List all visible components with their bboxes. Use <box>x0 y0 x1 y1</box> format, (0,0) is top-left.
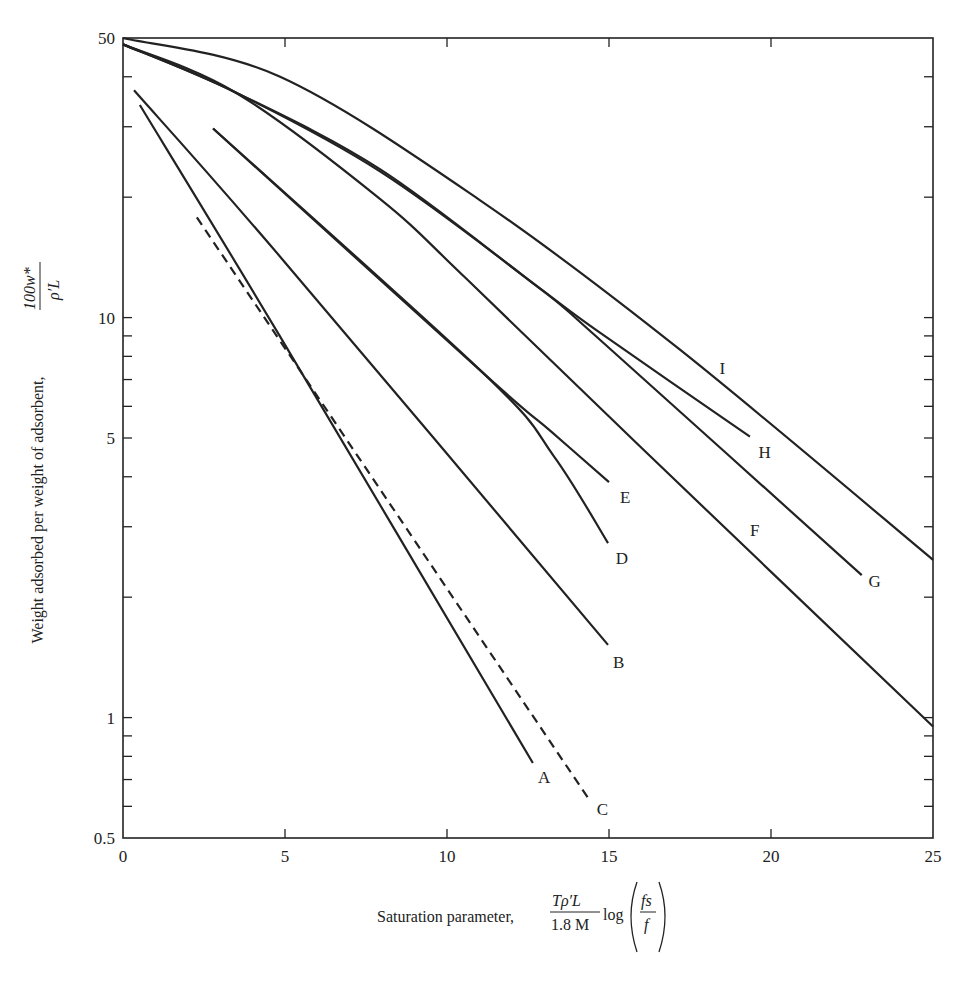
y-tick-label: 1 <box>107 709 116 728</box>
x-formula-frac-den: f <box>644 916 651 934</box>
y-axis-label: Weight adsorbed per weight of adsorbent, <box>29 376 47 643</box>
x-tick-label: 25 <box>925 847 942 866</box>
y-tick-label: 5 <box>107 429 116 448</box>
curves <box>123 38 933 801</box>
curve-I <box>123 38 933 560</box>
chart: 05101520250.5151050 ABCDEFGHI Weight ads… <box>0 0 977 985</box>
curve-label-D: D <box>616 549 628 568</box>
x-axis-label: Saturation parameter, <box>377 908 514 926</box>
y-formula-denominator: ρ′L <box>45 280 63 301</box>
right-paren <box>659 882 665 952</box>
curve-G <box>123 44 862 575</box>
y-tick-label: 50 <box>98 29 115 48</box>
curve-label-E: E <box>620 488 630 507</box>
curve-B <box>134 90 608 645</box>
curve-label-G: G <box>869 572 881 591</box>
x-tick-label: 15 <box>601 847 618 866</box>
curve-F <box>123 44 933 726</box>
axes: 05101520250.5151050 <box>94 29 942 866</box>
curve-label-H: H <box>758 443 770 462</box>
curve-label-F: F <box>750 521 759 540</box>
curve-label-A: A <box>538 768 551 787</box>
x-formula-numerator: Tρ′L <box>552 892 581 910</box>
curve-label-B: B <box>613 653 624 672</box>
curve-labels: ABCDEFGHI <box>538 359 881 820</box>
curve-label-I: I <box>720 359 726 378</box>
x-tick-label: 5 <box>281 847 290 866</box>
x-formula-denominator: 1.8 M <box>551 916 589 933</box>
y-axis-formula: 100w* ρ′L <box>21 262 63 310</box>
x-tick-label: 10 <box>439 847 456 866</box>
x-formula-func: log <box>603 906 623 924</box>
x-formula-frac-num: fs <box>641 892 652 910</box>
x-axis-title: Saturation parameter, Tρ′L 1.8 M log fs … <box>377 882 665 952</box>
y-axis-title: Weight adsorbed per weight of adsorbent,… <box>21 262 63 644</box>
left-paren <box>631 882 637 952</box>
y-formula-numerator: 100w* <box>21 267 38 310</box>
curve-A <box>140 105 533 763</box>
curve-C <box>197 217 590 800</box>
curve-H <box>123 44 750 436</box>
y-tick-label: 10 <box>98 309 115 328</box>
y-tick-label: 0.5 <box>94 829 115 848</box>
curve-label-C: C <box>597 800 608 819</box>
x-tick-label: 0 <box>119 847 128 866</box>
x-tick-label: 20 <box>763 847 780 866</box>
